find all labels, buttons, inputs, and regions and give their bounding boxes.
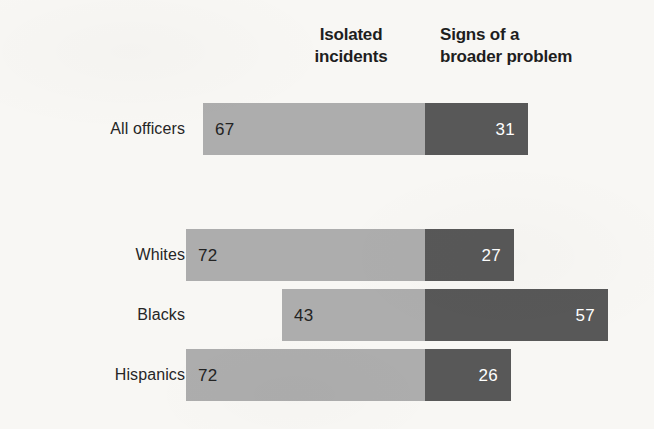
bar-row-all-officers: All officers 67 31 [0, 103, 654, 155]
bar-segment-broader-problem: 27 [425, 229, 514, 281]
column-header-broader-problem: Signs of a broader problem [440, 24, 650, 69]
bar-segment-isolated-incidents: 43 [282, 289, 425, 341]
bar-segment-isolated-incidents: 72 [186, 349, 425, 401]
bar-row-blacks: Blacks 43 57 [0, 289, 654, 341]
bar-value-isolated-incidents: 72 [198, 247, 218, 264]
bar-value-isolated-incidents: 67 [215, 121, 235, 138]
column-header-isolated-incidents-line1: Isolated [276, 24, 426, 46]
bar-row-whites: Whites 72 27 [0, 229, 654, 281]
column-header-broader-problem-line2: broader problem [440, 46, 650, 68]
column-header-isolated-incidents-line2: incidents [276, 46, 426, 68]
bar-segment-broader-problem: 26 [425, 349, 511, 401]
bar-value-broader-problem: 27 [481, 247, 501, 264]
bar-value-broader-problem: 57 [575, 307, 595, 324]
bar-value-isolated-incidents: 43 [294, 307, 314, 324]
bar-value-broader-problem: 26 [478, 367, 498, 384]
bar-row-hispanics: Hispanics 72 26 [0, 349, 654, 401]
bar-value-isolated-incidents: 72 [198, 367, 218, 384]
bar-segment-isolated-incidents: 72 [186, 229, 425, 281]
bar-value-broader-problem: 31 [495, 121, 515, 138]
bar-segment-broader-problem: 31 [425, 103, 528, 155]
column-header-broader-problem-line1: Signs of a [440, 24, 650, 46]
bar-row-label: Hispanics [0, 366, 185, 384]
stacked-bar-chart: Isolated incidents Signs of a broader pr… [0, 0, 654, 429]
bar-segment-broader-problem: 57 [425, 289, 608, 341]
bar-row-label: Blacks [0, 306, 185, 324]
bar-row-label: All officers [0, 120, 185, 138]
bar-row-label: Whites [0, 246, 185, 264]
column-header-isolated-incidents: Isolated incidents [276, 24, 426, 69]
bar-segment-isolated-incidents: 67 [203, 103, 425, 155]
